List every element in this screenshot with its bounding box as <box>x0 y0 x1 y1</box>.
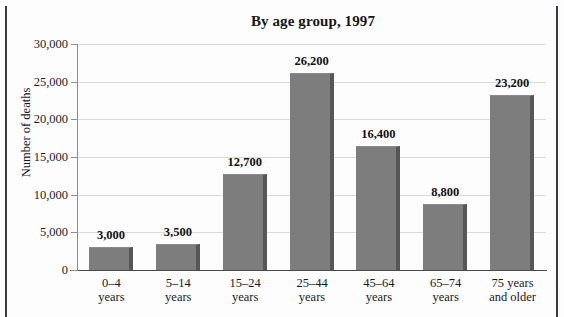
y-axis-tick <box>71 232 78 233</box>
bar-slot: 26,200 <box>279 44 346 270</box>
x-axis-line <box>70 270 547 271</box>
bar[interactable] <box>223 174 267 270</box>
x-axis-category-label: 15–24years <box>209 276 281 304</box>
bar-value-label: 26,200 <box>269 54 355 69</box>
bar-value-label: 3,500 <box>135 225 221 240</box>
y-axis-tick-labels: 05,00010,00015,00020,00025,00030,000 <box>0 0 68 317</box>
y-axis-tick <box>71 119 78 120</box>
y-axis-tick <box>71 44 78 45</box>
bar[interactable] <box>89 247 133 270</box>
x-axis-category-label: 65–74years <box>410 276 482 304</box>
x-axis-category-label: 25–44years <box>276 276 348 304</box>
x-axis-category-label: 45–64years <box>343 276 415 304</box>
y-axis-tick <box>71 82 78 83</box>
y-axis-tick-label: 20,000 <box>6 112 68 127</box>
bar-slot: 23,200 <box>479 44 546 270</box>
y-axis-tick-label: 0 <box>6 263 68 278</box>
y-axis-tick-label: 25,000 <box>6 74 68 89</box>
page-border-right <box>556 6 558 317</box>
plot-area: 3,0003,50012,70026,20016,4008,80023,200 <box>78 44 546 270</box>
x-axis-category-label: 75 yearsand older <box>477 276 549 304</box>
bar-chart-figure: By age group, 1997 05,00010,00015,00020,… <box>0 0 564 317</box>
bar-value-label: 12,700 <box>202 155 288 170</box>
bar-slot: 16,400 <box>345 44 412 270</box>
bar[interactable] <box>356 146 400 270</box>
bar[interactable] <box>156 244 200 270</box>
y-axis-tick-label: 5,000 <box>6 225 68 240</box>
bar[interactable] <box>290 73 334 270</box>
y-axis-tick-label: 15,000 <box>6 150 68 165</box>
y-axis-title: Number of deaths <box>19 63 34 203</box>
x-axis-category-label: 5–14years <box>142 276 214 304</box>
y-axis-tick-label: 10,000 <box>6 187 68 202</box>
y-axis-tick <box>71 195 78 196</box>
bar-slot: 12,700 <box>212 44 279 270</box>
bar-value-label: 8,800 <box>402 185 488 200</box>
bar[interactable] <box>490 95 534 270</box>
x-axis-category-label: 0–4years <box>75 276 147 304</box>
y-axis-tick-label: 30,000 <box>6 37 68 52</box>
bar[interactable] <box>423 204 467 270</box>
y-axis-tick <box>71 270 78 271</box>
bar-value-label: 23,200 <box>469 76 555 91</box>
y-axis-tick <box>71 157 78 158</box>
chart-title: By age group, 1997 <box>78 13 548 30</box>
bar-value-label: 16,400 <box>335 127 421 142</box>
